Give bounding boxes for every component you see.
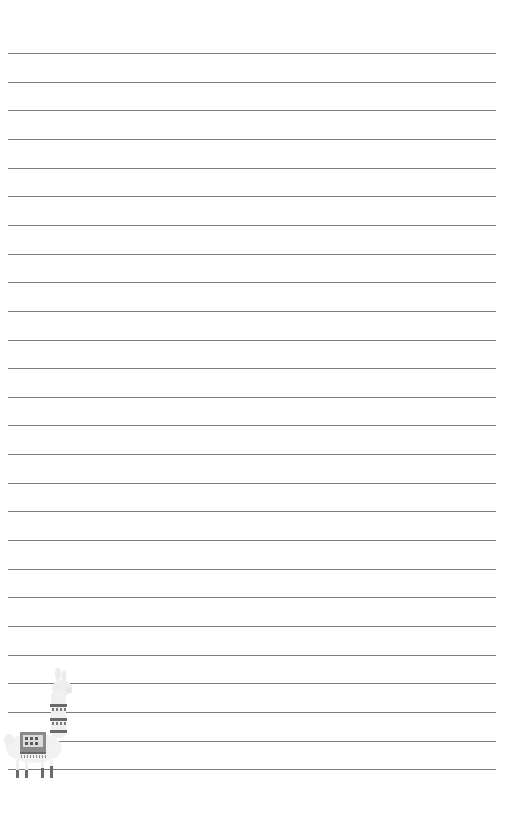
ruled-line [8,626,496,627]
ruled-line [8,655,496,656]
ruled-line [8,712,496,713]
ruled-line [8,454,496,455]
ruled-line [8,311,496,312]
ruled-line [8,741,496,742]
ruled-line [8,110,496,111]
ruled-line [8,425,496,426]
ruled-line [8,597,496,598]
ruled-line [8,196,496,197]
ruled-line [8,282,496,283]
ruled-line [8,139,496,140]
ruled-line [8,82,496,83]
ruled-line [8,540,496,541]
ruled-line [8,683,496,684]
ruled-line [8,483,496,484]
ruled-line [8,254,496,255]
llama-icon [2,668,72,778]
ruled-line [8,340,496,341]
ruled-line [8,397,496,398]
ruled-line [8,569,496,570]
ruled-line [8,769,496,770]
ruled-line [8,225,496,226]
ruled-line [8,53,496,54]
notepaper-page [0,0,513,815]
ruled-line [8,511,496,512]
ruled-line [8,168,496,169]
ruled-line [8,368,496,369]
